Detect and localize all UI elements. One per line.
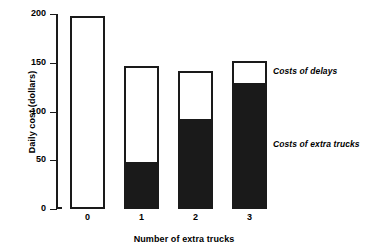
y-axis-tick <box>50 63 57 64</box>
y-axis-tick <box>50 160 57 161</box>
y-axis-tick-label: 50 <box>12 155 46 164</box>
y-axis-tick <box>50 14 57 15</box>
y-axis-tick-label: 200 <box>12 9 46 18</box>
chart-figure: Daily cost (dollars) 050100150200 0123 N… <box>0 0 368 252</box>
bar-segment-extra-trucks <box>126 162 157 207</box>
annotation-costs-of-delays: Costs of delays <box>273 66 337 76</box>
x-axis-title: Number of extra trucks <box>0 234 368 244</box>
bar <box>232 61 267 209</box>
bar <box>178 71 213 210</box>
x-axis-tick-label: 2 <box>176 212 216 222</box>
x-axis-tick-label: 1 <box>122 212 162 222</box>
x-axis-tick-label: 3 <box>230 212 270 222</box>
y-axis-tick-label: 100 <box>12 107 46 116</box>
bar-segment-extra-trucks <box>234 83 265 207</box>
x-axis-tick-label: 0 <box>68 212 108 222</box>
y-axis-tick-label: 0 <box>12 204 46 213</box>
bar <box>70 16 105 209</box>
y-axis-tick-label: 150 <box>12 58 46 67</box>
y-axis-tick <box>50 112 57 113</box>
plot-area <box>58 8 308 209</box>
y-axis-tick <box>50 209 57 210</box>
bar <box>124 66 159 209</box>
bar-segment-extra-trucks <box>180 119 211 207</box>
annotation-costs-of-extra-trucks: Costs of extra trucks <box>273 139 360 149</box>
